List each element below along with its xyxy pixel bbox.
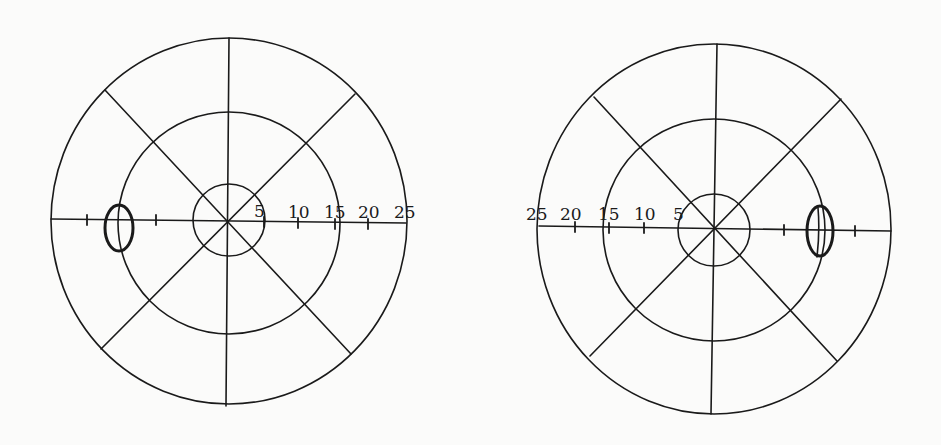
right-label-15: 15 bbox=[598, 204, 620, 224]
right-label-20: 20 bbox=[560, 204, 582, 224]
right-label-5: 5 bbox=[673, 204, 684, 224]
right-polar-chart bbox=[537, 44, 891, 414]
left-polar-chart bbox=[51, 38, 407, 406]
left-scale-labels: 5 10 15 20 25 bbox=[254, 201, 416, 222]
right-blind-spot-inner-arc bbox=[817, 208, 819, 257]
figure: 5 10 15 20 25 25 20 15 10 5 bbox=[0, 0, 941, 445]
left-label-15: 15 bbox=[324, 202, 346, 222]
right-label-25: 25 bbox=[526, 204, 548, 224]
right-label-10: 10 bbox=[634, 204, 656, 224]
left-label-20: 20 bbox=[358, 202, 380, 222]
right-scale-labels: 25 20 15 10 5 bbox=[526, 204, 684, 224]
left-label-25: 25 bbox=[394, 202, 416, 222]
right-blind-spot-ellipse bbox=[807, 206, 833, 256]
visual-field-charts: 5 10 15 20 25 25 20 15 10 5 bbox=[0, 0, 941, 445]
left-label-10: 10 bbox=[288, 202, 310, 222]
left-label-5: 5 bbox=[254, 201, 265, 221]
